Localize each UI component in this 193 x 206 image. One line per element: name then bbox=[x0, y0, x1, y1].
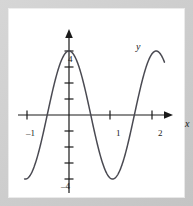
plot-area: y x –1 1 2 4 –4 bbox=[9, 9, 184, 197]
y-tick-label--4: –4 bbox=[61, 182, 70, 191]
y-axis-arrow-icon bbox=[65, 29, 73, 38]
x-tick-label--1: –1 bbox=[26, 129, 35, 138]
image-frame: y x –1 1 2 4 –4 bbox=[0, 0, 193, 206]
x-tick-label-1: 1 bbox=[116, 129, 121, 138]
x-axis-label: x bbox=[185, 119, 189, 129]
y-axis-label: y bbox=[136, 42, 140, 52]
x-axis bbox=[18, 111, 173, 119]
y-tick-label-4: 4 bbox=[68, 55, 73, 64]
graph-svg bbox=[9, 9, 184, 197]
x-axis-arrow-icon bbox=[164, 111, 173, 119]
x-tick-label-2: 2 bbox=[158, 129, 163, 138]
